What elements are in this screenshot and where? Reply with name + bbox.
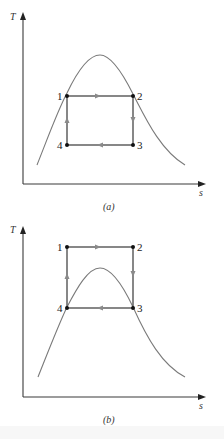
panel-a: T s 1 2 3 4 (a) (10, 11, 206, 213)
t-axis-label: T (10, 11, 17, 22)
t-axis-arrow-icon (20, 12, 26, 20)
cycle-path (67, 247, 133, 308)
arrow-2-to-3-icon (131, 117, 136, 123)
arrow-1-to-2-icon (95, 245, 101, 250)
state-label-3: 3 (137, 302, 143, 314)
arrow-2-to-3-icon (131, 271, 136, 277)
state-point-4 (65, 306, 69, 310)
state-label-2: 2 (137, 90, 143, 102)
state-point-1 (65, 245, 69, 249)
state-point-4 (65, 143, 69, 147)
state-label-3: 3 (137, 139, 143, 151)
state-point-3 (131, 143, 135, 147)
state-label-4: 4 (57, 139, 63, 151)
panel-a-caption: (a) (103, 201, 115, 213)
arrow-4-to-1-icon (65, 273, 70, 279)
figure-canvas: T s 1 2 3 4 (a) T s (0, 0, 224, 439)
state-point-3 (131, 306, 135, 310)
s-axis-label: s (199, 187, 203, 198)
t-axis-label: T (10, 224, 17, 235)
s-axis-label: s (199, 400, 203, 411)
state-label-1: 1 (57, 241, 63, 253)
arrow-3-to-4-icon (97, 306, 103, 311)
panel-b: T s 1 2 3 4 (b) (10, 224, 206, 426)
state-point-2 (131, 245, 135, 249)
state-point-2 (131, 94, 135, 98)
arrow-3-to-4-icon (97, 143, 103, 148)
arrow-1-to-2-icon (95, 94, 101, 99)
t-axis-arrow-icon (20, 226, 26, 234)
state-label-1: 1 (57, 90, 63, 102)
arrow-4-to-1-icon (65, 117, 70, 123)
state-point-1 (65, 94, 69, 98)
state-label-2: 2 (137, 241, 143, 253)
panel-b-caption: (b) (103, 414, 115, 426)
cycle-path (67, 96, 133, 145)
saturation-dome-curve (38, 268, 185, 377)
state-label-4: 4 (57, 302, 63, 314)
